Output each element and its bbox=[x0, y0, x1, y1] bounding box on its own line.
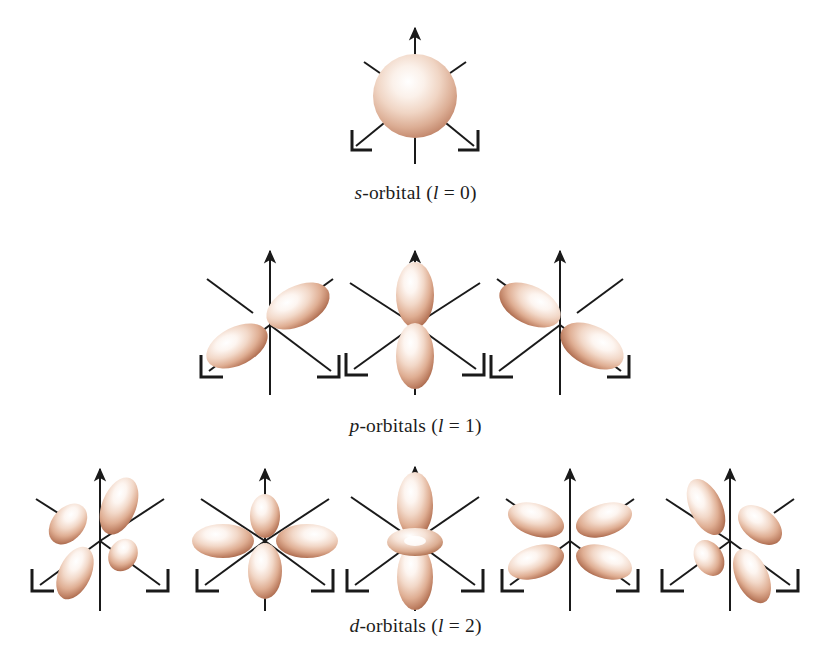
orbital-s bbox=[330, 14, 500, 174]
d-orbital-row: d-orbitals (l = 2) bbox=[0, 463, 831, 618]
arrowhead-lower-left bbox=[347, 569, 369, 591]
orbital-d-1 bbox=[18, 463, 183, 618]
d1-lobe-upper-left bbox=[41, 496, 95, 552]
s-caption-open-paren: ( bbox=[426, 182, 433, 203]
d-caption-symbol: d bbox=[349, 615, 359, 636]
arrowhead-lower-left bbox=[662, 569, 684, 591]
p-caption-open-paren: ( bbox=[431, 415, 438, 436]
orbital-py bbox=[475, 243, 645, 403]
axis-y bbox=[270, 325, 331, 371]
arrowhead-lower-left bbox=[346, 353, 368, 375]
d5-lobe-upper-left bbox=[679, 473, 733, 541]
arrowhead-lower-left bbox=[32, 569, 54, 591]
d-caption-close-paren: ) bbox=[475, 615, 482, 636]
axes-d4 bbox=[502, 469, 638, 611]
orbital-d-4 bbox=[488, 463, 653, 618]
axis-stub-upper-left bbox=[36, 499, 58, 513]
arrowhead-lower-right bbox=[311, 569, 333, 591]
d-caption-value: = 2 bbox=[444, 615, 475, 636]
d5-lobe-lower-left bbox=[687, 535, 730, 582]
d5-lobe-upper-right bbox=[730, 497, 789, 553]
d2-lobe-top bbox=[250, 494, 280, 538]
d-orbital-caption: d-orbitals (l = 2) bbox=[0, 615, 831, 637]
d-caption-word: -orbitals bbox=[359, 615, 431, 636]
px-lobe-lower-left bbox=[199, 314, 275, 378]
s-caption-close-paren: ) bbox=[470, 182, 477, 203]
pz-lobe-bottom bbox=[396, 323, 434, 389]
s-orbital-row: s-orbital (l = 0) bbox=[0, 14, 831, 174]
p-caption-close-paren: ) bbox=[475, 415, 482, 436]
d2-lobe-left bbox=[192, 524, 254, 558]
d-caption-open-paren: ( bbox=[431, 615, 438, 636]
arrowhead-lower-left bbox=[491, 355, 513, 377]
s-orbital-sphere bbox=[373, 54, 457, 138]
d5-lobe-lower-right bbox=[725, 543, 779, 609]
s-caption-word: -orbital bbox=[362, 182, 426, 203]
p-orbital-caption: p-orbitals (l = 1) bbox=[0, 415, 831, 437]
axis-stub-upper-right bbox=[577, 279, 623, 313]
orbital-dz2 bbox=[333, 463, 498, 618]
p-caption-word: -orbitals bbox=[359, 415, 431, 436]
d4-lobe-lower-left bbox=[503, 538, 568, 586]
d4-lobe-lower-right bbox=[571, 538, 636, 586]
axis-x bbox=[499, 325, 560, 371]
axes-py bbox=[491, 251, 629, 395]
s-caption-value: = 0 bbox=[439, 182, 470, 203]
orbital-d-5 bbox=[648, 463, 813, 618]
pz-lobe-top bbox=[396, 262, 434, 328]
p-orbital-row: p-orbitals (l = 1) bbox=[0, 243, 831, 403]
orbital-d-2 bbox=[183, 463, 348, 618]
arrowhead-lower-right bbox=[776, 569, 798, 591]
d2-lobe-bottom bbox=[248, 543, 282, 599]
axis-stub-upper-left bbox=[207, 279, 253, 313]
orbital-figure: s-orbital (l = 0) bbox=[0, 0, 831, 653]
axis-stub-upper-right bbox=[774, 499, 794, 513]
d2-lobe-right bbox=[276, 524, 338, 558]
p-caption-value: = 1 bbox=[444, 415, 475, 436]
dz2-ring-hole bbox=[404, 536, 426, 546]
arrowhead-lower-right bbox=[461, 569, 483, 591]
arrowhead-lower-right bbox=[146, 569, 168, 591]
s-orbital-caption: s-orbital (l = 0) bbox=[0, 182, 831, 204]
d1-lobe-lower-right bbox=[102, 533, 143, 576]
arrowhead-lower-left bbox=[197, 569, 219, 591]
p-caption-symbol: p bbox=[349, 415, 359, 436]
